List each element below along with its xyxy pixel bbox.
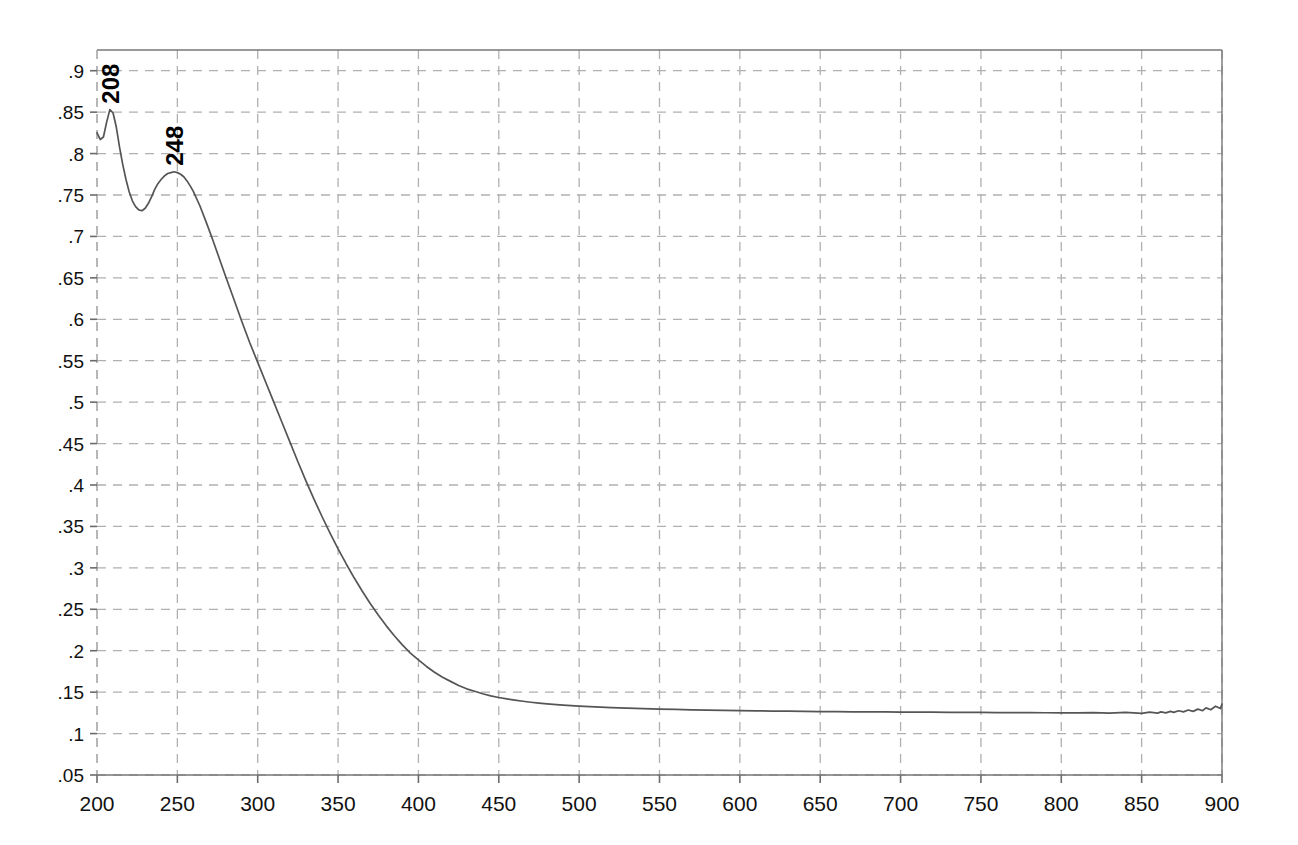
y-tick-label: .7: [68, 226, 84, 247]
y-tick-label: .1: [68, 724, 84, 745]
x-tick-label: 400: [401, 792, 436, 815]
x-tick-label: 300: [240, 792, 275, 815]
y-tick-label: .6: [68, 309, 84, 330]
y-tick-label: .35: [58, 516, 84, 537]
x-tick-label: 500: [562, 792, 597, 815]
uv-vis-spectrum-plot: .05.1.15.2.25.3.35.4.45.5.55.6.65.7.75.8…: [0, 0, 1298, 845]
y-tick-label: .85: [58, 102, 84, 123]
y-tick-label: .4: [68, 475, 84, 496]
y-tick-label: .65: [58, 268, 84, 289]
y-tick-label: .3: [68, 558, 84, 579]
y-tick-label: .9: [68, 61, 84, 82]
y-tick-label: .75: [58, 185, 84, 206]
x-tick-label: 550: [642, 792, 677, 815]
peak-label-208: 208: [97, 64, 124, 104]
y-tick-label: .45: [58, 434, 84, 455]
y-tick-label: .55: [58, 351, 84, 372]
y-tick-label: .5: [68, 392, 84, 413]
x-tick-label: 450: [481, 792, 516, 815]
x-tick-label: 600: [722, 792, 757, 815]
x-tick-label: 350: [321, 792, 356, 815]
spectrum-chart-figure: .05.1.15.2.25.3.35.4.45.5.55.6.65.7.75.8…: [0, 0, 1298, 845]
y-tick-label: .25: [58, 599, 84, 620]
y-tick-label: .2: [68, 641, 84, 662]
y-tick-label: .15: [58, 682, 84, 703]
x-axis-tick-labels: 2002503003504004505005506006507007508008…: [79, 792, 1239, 815]
y-tick-label: .8: [68, 144, 84, 165]
x-tick-label: 650: [803, 792, 838, 815]
y-axis-tick-labels: .05.1.15.2.25.3.35.4.45.5.55.6.65.7.75.8…: [58, 61, 85, 786]
x-tick-label: 900: [1204, 792, 1239, 815]
x-tick-label: 850: [1124, 792, 1159, 815]
x-tick-label: 750: [963, 792, 998, 815]
x-tick-label: 700: [883, 792, 918, 815]
x-tick-label: 250: [160, 792, 195, 815]
peak-annotations: 208248: [97, 64, 188, 166]
x-tick-label: 200: [79, 792, 114, 815]
x-tick-label: 800: [1044, 792, 1079, 815]
grid-lines: [97, 50, 1222, 775]
y-tick-label: .05: [58, 765, 84, 786]
axis-ticks: [90, 71, 1222, 783]
peak-label-248: 248: [161, 126, 188, 166]
